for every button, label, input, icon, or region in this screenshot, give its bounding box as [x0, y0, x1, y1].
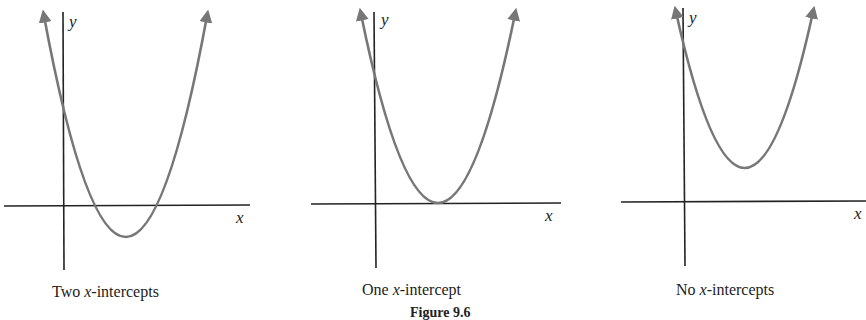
x-axis — [621, 201, 866, 202]
x-axis-label: x — [236, 208, 244, 228]
y-axis — [63, 12, 64, 270]
parabola-curve — [44, 16, 207, 237]
caption-no-intercepts: No x-intercepts — [676, 281, 774, 299]
x-axis-label: x — [545, 206, 553, 226]
x-axis — [4, 205, 250, 206]
y-axis-label: y — [689, 8, 697, 28]
y-axis — [374, 12, 376, 268]
panel-one-intercept — [311, 12, 561, 268]
parabola-curve — [676, 12, 813, 168]
y-axis-label: y — [69, 12, 77, 32]
parabola-curve — [361, 14, 515, 203]
panel-no-intercepts — [621, 8, 866, 266]
y-axis-label: y — [381, 10, 389, 30]
caption-one-intercept: One x-intercept — [362, 281, 461, 299]
figure-canvas — [0, 0, 866, 320]
x-axis-label: x — [854, 204, 862, 224]
panel-two-intercepts — [4, 12, 250, 270]
caption-two-intercepts: Two x-intercepts — [52, 283, 159, 301]
figure-title: Figure 9.6 — [410, 305, 470, 320]
